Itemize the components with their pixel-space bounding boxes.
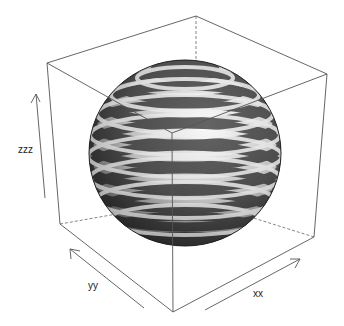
x-axis-label: xx — [253, 288, 263, 299]
y-axis-label: yy — [88, 280, 98, 291]
plot-canvas — [0, 0, 344, 326]
plot-3d: zzz yy xx — [0, 0, 344, 326]
y-axis-arrow — [70, 249, 144, 308]
z-axis-label: zzz — [18, 144, 33, 155]
x-axis-arrow — [205, 259, 300, 310]
z-axis-arrow — [31, 94, 45, 198]
striped-sphere — [88, 60, 282, 250]
